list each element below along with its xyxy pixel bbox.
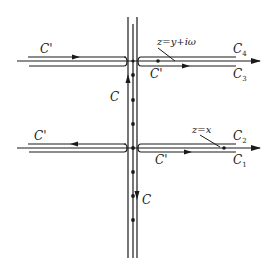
- upper-point-dot: [156, 59, 160, 63]
- upper-point-leader: [158, 48, 175, 61]
- vertical-down-arrow-icon: [135, 191, 140, 200]
- pole-dot: [131, 122, 135, 126]
- pole-dot: [131, 146, 135, 150]
- vertical-up-arrow-icon: [126, 74, 131, 83]
- label-upper-point: z=y+iω: [156, 36, 196, 47]
- upper-right-arrow-icon: [182, 64, 190, 69]
- label-c4: C4: [233, 42, 247, 58]
- label-c2: C2: [233, 129, 247, 145]
- pole-dot: [131, 98, 135, 102]
- label-c3: C3: [233, 67, 247, 83]
- label-lower-left-contour: C': [34, 129, 46, 143]
- label-vertical-lower: C: [142, 193, 151, 207]
- upper-horizontal-group: [17, 57, 260, 66]
- label-upper-left-contour: C': [40, 42, 52, 56]
- lower-point-leader: [200, 135, 220, 147]
- pole-dot: [131, 73, 135, 77]
- label-upper-right-contour: C': [150, 67, 162, 81]
- diagram-svg: C' C' C' C' C C z=y+iω z=x C4 C3 C2 C1: [0, 0, 276, 272]
- pole-dot: [131, 218, 135, 222]
- lower-right-arrow-icon: [184, 150, 192, 155]
- label-c1: C1: [233, 153, 247, 169]
- contour-diagram: C' C' C' C' C C z=y+iω z=x C4 C3 C2 C1: [0, 0, 276, 272]
- pole-dot: [131, 170, 135, 174]
- label-vertical-upper: C: [110, 90, 119, 104]
- lower-point-dot: [222, 146, 226, 150]
- lower-left-arrow-icon: [70, 142, 78, 147]
- vertical-contour-lines: [128, 17, 137, 258]
- label-lower-right-contour: C': [155, 153, 167, 167]
- pole-dot: [131, 194, 135, 198]
- upper-left-arrow-icon: [72, 55, 80, 60]
- intersection-dot: [131, 59, 134, 62]
- label-lower-point: z=x: [191, 124, 212, 135]
